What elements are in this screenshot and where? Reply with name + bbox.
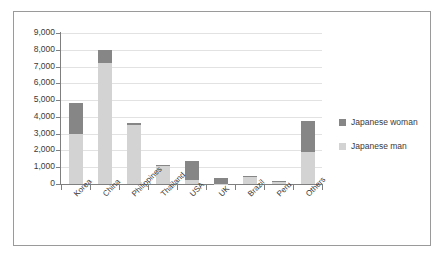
- y-axis-tick-label: 9,000: [15, 28, 55, 37]
- legend-item[interactable]: Japanese woman: [339, 117, 431, 127]
- bar-segment-japanese-man[interactable]: [156, 166, 170, 184]
- x-axis-tick-mark: [119, 185, 120, 190]
- bar-segment-japanese-woman[interactable]: [98, 50, 112, 63]
- y-axis-tick-label: 2,000: [15, 145, 55, 154]
- legend-item-label: Japanese man: [351, 141, 407, 151]
- bar-segment-japanese-woman[interactable]: [69, 103, 83, 133]
- y-axis-labels: 9,0008,0007,0006,0005,0004,0003,0002,000…: [14, 12, 55, 212]
- chart-frame: 9,0008,0007,0006,0005,0004,0003,0002,000…: [13, 11, 431, 246]
- x-axis-tick-mark: [61, 185, 62, 190]
- bar-segment-japanese-man[interactable]: [185, 180, 199, 184]
- gridline: [61, 33, 322, 34]
- y-axis-tick-label: 4,000: [15, 112, 55, 121]
- legend-swatch-icon: [339, 143, 346, 150]
- bar-segment-japanese-woman[interactable]: [185, 161, 199, 179]
- bar-segment-japanese-woman[interactable]: [127, 123, 141, 126]
- plot-area: [61, 33, 322, 184]
- x-axis-category-label: UK: [217, 184, 231, 198]
- chart-legend: Japanese womanJapanese man: [339, 117, 431, 165]
- bar-segment-japanese-woman[interactable]: [214, 178, 228, 183]
- y-axis-tick-label: 1,000: [15, 162, 55, 171]
- bar-segment-japanese-woman[interactable]: [156, 165, 170, 166]
- bar-segment-japanese-woman[interactable]: [301, 121, 315, 152]
- bar-segment-japanese-man[interactable]: [301, 152, 315, 184]
- legend-item-label: Japanese woman: [351, 117, 418, 127]
- y-axis-tick-label: 0: [15, 179, 55, 188]
- x-axis-tick-mark: [235, 185, 236, 190]
- axis-baseline: [61, 184, 322, 185]
- legend-item[interactable]: Japanese man: [339, 141, 431, 151]
- bar-segment-japanese-man[interactable]: [272, 181, 286, 184]
- x-axis-tick-mark: [322, 185, 323, 190]
- x-axis-tick-mark: [293, 185, 294, 190]
- y-axis-tick-label: 7,000: [15, 62, 55, 71]
- y-axis-tick-label: 5,000: [15, 95, 55, 104]
- bar-segment-japanese-man[interactable]: [243, 176, 257, 184]
- y-axis-tick-label: 8,000: [15, 45, 55, 54]
- bar-segment-japanese-man[interactable]: [127, 125, 141, 184]
- x-axis-tick-mark: [148, 185, 149, 190]
- bar-segment-japanese-man[interactable]: [98, 63, 112, 184]
- x-axis-tick-mark: [177, 185, 178, 190]
- y-axis-tick-label: 6,000: [15, 78, 55, 87]
- bar-segment-japanese-man[interactable]: [69, 134, 83, 184]
- x-axis-tick-mark: [90, 185, 91, 190]
- bar-segment-japanese-man[interactable]: [214, 184, 228, 185]
- legend-swatch-icon: [339, 119, 346, 126]
- x-axis-tick-mark: [264, 185, 265, 190]
- y-axis-tick-label: 3,000: [15, 129, 55, 138]
- x-axis-tick-mark: [206, 185, 207, 190]
